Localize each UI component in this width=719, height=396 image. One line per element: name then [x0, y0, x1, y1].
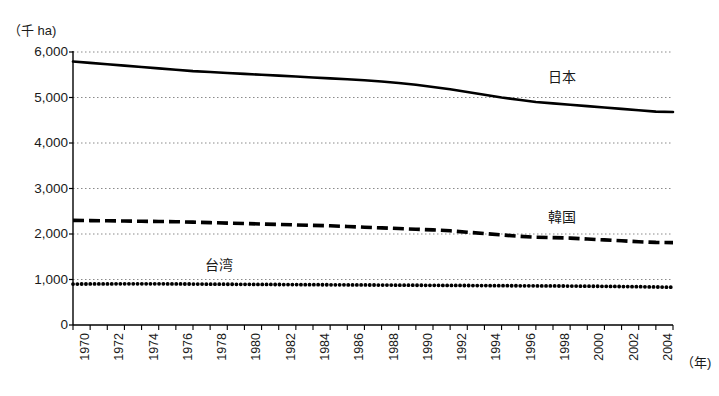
series-line-2 — [73, 284, 673, 287]
line-chart: （千 ha) （年) 6,0005,0004,0003,0002,0001,00… — [0, 0, 719, 396]
plot-area — [0, 0, 719, 396]
series-line-0 — [73, 62, 673, 112]
series-line-1 — [73, 220, 673, 242]
